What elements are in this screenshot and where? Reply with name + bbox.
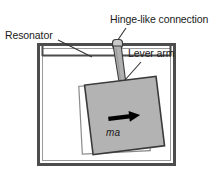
label-force-ma: ma [106,128,120,138]
leader-hinge [119,28,127,39]
leader-lever-arm [125,62,141,80]
arrow-shaft [108,116,131,119]
resonator-schematic-svg [0,0,223,181]
mass-deflected [85,76,165,154]
label-lever-arm: Lever arm [128,48,174,59]
label-hinge-like-connection: Hinge-like connection [110,14,208,25]
diagram-canvas [0,0,223,181]
label-resonator: Resonator [5,30,53,41]
